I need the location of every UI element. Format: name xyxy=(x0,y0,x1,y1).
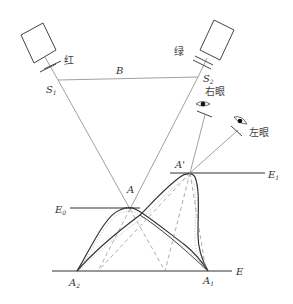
left-slit-mark-2 xyxy=(44,61,61,69)
point-A1-label: A1 xyxy=(202,275,214,287)
point-A-prime-label: A' xyxy=(174,159,185,170)
right-eye-label: 右眼 xyxy=(205,85,225,97)
plane-E-label: E xyxy=(235,266,244,277)
right-projector xyxy=(193,20,234,77)
terrain-right xyxy=(77,173,208,271)
terrain-right-outline xyxy=(77,174,208,271)
left-projector xyxy=(21,23,61,80)
right-slit-mark-2 xyxy=(193,60,211,69)
left-slit-mark-1 xyxy=(40,64,56,72)
ray-left-eye-to-Aprime xyxy=(190,130,238,173)
S1-label: S1 xyxy=(46,84,57,96)
stereo-projection-diagram: 红 绿 S1 S2 B 右眼 左眼 A A' E0 E1 E A2 A1 xyxy=(0,0,293,304)
point-A2-label: A2 xyxy=(68,277,80,289)
point-A-label: A xyxy=(126,184,134,195)
red-label: 红 xyxy=(64,54,74,66)
right-eye xyxy=(196,102,212,118)
plane-E0-label: E0 xyxy=(54,204,66,216)
S2-label: S2 xyxy=(203,73,214,85)
right-projector-box xyxy=(200,20,234,60)
right-eye-pupil xyxy=(201,102,206,107)
base-line-B xyxy=(58,77,198,80)
terrain-right-hatch xyxy=(82,178,204,269)
terrain-right-dash-1 xyxy=(165,173,190,271)
ray-S1-to-A xyxy=(58,80,130,209)
terrain-right-dash-2 xyxy=(98,173,190,271)
terrain-left-dash-1 xyxy=(98,209,130,271)
baseline-B-label: B xyxy=(115,65,123,76)
terrain-left-hatch xyxy=(80,212,206,270)
ray-right-eye-to-Aprime xyxy=(190,115,205,173)
left-eye-pupil xyxy=(238,119,243,124)
plane-E1-label: E1 xyxy=(267,169,279,181)
left-eye-label: 左眼 xyxy=(249,126,269,138)
ray-S2-to-A xyxy=(130,77,198,209)
green-label: 绿 xyxy=(174,45,184,57)
left-eye xyxy=(231,117,247,136)
left-projector-box xyxy=(21,23,56,63)
